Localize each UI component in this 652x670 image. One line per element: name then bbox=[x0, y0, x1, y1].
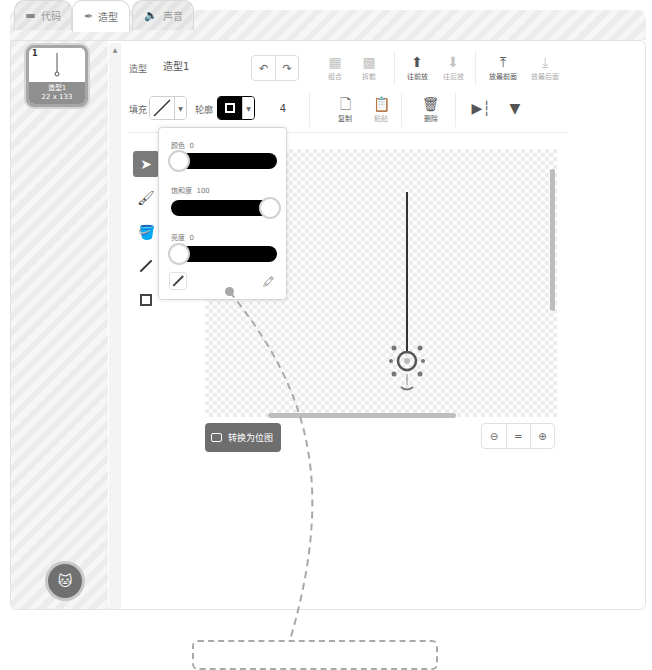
divider bbox=[401, 93, 402, 127]
zoom-in-button[interactable]: ⊕ bbox=[530, 424, 554, 448]
forward-button[interactable]: ⬆ 往前放 bbox=[399, 53, 435, 81]
editor-frame: 1 造型1 22 x 133 🐱 ▲ 造型 造型1 ↶ ↷ ▦ 组合 bbox=[10, 40, 646, 610]
tab-costumes-label: 造型 bbox=[98, 9, 118, 24]
ungroup-label: 拆散 bbox=[362, 71, 376, 81]
costume-size: 22 x 133 bbox=[29, 93, 85, 102]
zoom-controls: ⊖ = ⊕ bbox=[481, 423, 555, 449]
zoom-out-icon: ⊖ bbox=[490, 431, 498, 442]
color-value: 0 bbox=[189, 142, 193, 150]
fill-tool[interactable]: 🪣 bbox=[133, 219, 159, 245]
group-button[interactable]: ▦ 组合 bbox=[317, 53, 353, 81]
fill-color-picker[interactable]: ▼ bbox=[149, 96, 187, 120]
outline-width-input[interactable]: 4 bbox=[263, 96, 303, 120]
arrow-down-icon: ⬇ bbox=[447, 53, 459, 71]
divider bbox=[394, 51, 395, 85]
arrow-top-icon: ⤒ bbox=[500, 53, 506, 71]
zoom-out-button[interactable]: ⊖ bbox=[482, 424, 506, 448]
add-sprite-cat-icon: 🐱 bbox=[58, 573, 73, 589]
brush-tool[interactable]: 🖌 bbox=[133, 185, 159, 211]
costume-name: 造型1 bbox=[29, 84, 85, 93]
select-tool[interactable]: ➤ bbox=[133, 151, 159, 177]
color-slider[interactable] bbox=[171, 153, 277, 169]
no-color-button[interactable] bbox=[169, 272, 187, 290]
canvas-vertical-scrollbar[interactable] bbox=[550, 169, 555, 311]
undo-icon: ↶ bbox=[259, 62, 268, 75]
line-icon bbox=[140, 260, 153, 273]
trash-icon: 🗑 bbox=[422, 95, 440, 113]
costume-label: 造型1 22 x 133 bbox=[29, 82, 85, 104]
outline-swatch bbox=[218, 97, 242, 119]
copy-button[interactable]: 🗋 复制 bbox=[327, 95, 363, 123]
backward-button[interactable]: ⬇ 往后放 bbox=[435, 53, 471, 81]
tab-code[interactable]: ▬ 代码 bbox=[14, 0, 72, 30]
delete-button[interactable]: 🗑 删除 bbox=[413, 95, 449, 123]
brightness-slider[interactable] bbox=[171, 246, 277, 262]
tab-sounds-label: 声音 bbox=[163, 8, 183, 23]
costume-list: 1 造型1 22 x 133 🐱 bbox=[11, 41, 108, 610]
flip-horizontal-button[interactable]: ▶┆ bbox=[463, 99, 499, 117]
outline-label: 轮廓 bbox=[195, 103, 213, 116]
color-slider-knob[interactable] bbox=[168, 150, 190, 172]
copy-label: 复制 bbox=[338, 113, 352, 123]
annotation-box bbox=[192, 640, 438, 670]
costume-list-scrollbar[interactable]: ▲ bbox=[109, 43, 121, 609]
code-icon: ▬ bbox=[25, 9, 35, 22]
saturation-slider-knob[interactable] bbox=[259, 197, 281, 219]
fill-label: 填充 bbox=[129, 103, 147, 116]
tab-code-label: 代码 bbox=[41, 8, 61, 23]
copy-icon: 🗋 bbox=[340, 95, 351, 113]
outline-color-picker[interactable]: ▼ bbox=[217, 96, 255, 120]
tab-costumes[interactable]: ✒ 造型 bbox=[72, 0, 130, 32]
rectangle-icon bbox=[140, 294, 152, 306]
zoom-reset-label: = bbox=[514, 431, 522, 442]
forward-label: 往前放 bbox=[407, 71, 428, 81]
tool-palette: ➤ 🖌 🪣 bbox=[133, 151, 159, 321]
chevron-down-icon: ▼ bbox=[174, 97, 186, 119]
image-icon bbox=[211, 433, 222, 442]
brush-icon: 🖌 bbox=[137, 190, 155, 206]
outline-color-popover: 颜色 0 饱和度 100 亮度 0 🖍 bbox=[158, 127, 287, 300]
flip-vertical-button[interactable]: ▼ bbox=[497, 99, 533, 117]
paste-label: 粘贴 bbox=[374, 113, 388, 123]
divider bbox=[475, 51, 476, 85]
group-icon: ▦ bbox=[328, 53, 341, 71]
no-color-icon bbox=[173, 276, 184, 287]
convert-to-bitmap-button[interactable]: 转换为位图 bbox=[205, 423, 281, 452]
saturation-slider[interactable] bbox=[171, 200, 277, 216]
paste-button[interactable]: 📋 粘贴 bbox=[363, 95, 399, 123]
brush-icon: ✒ bbox=[84, 10, 93, 23]
brightness-label: 亮度 0 bbox=[171, 232, 194, 242]
saturation-label: 饱和度 100 bbox=[171, 185, 210, 195]
paste-icon: 📋 bbox=[373, 95, 390, 113]
chevron-down-icon: ▼ bbox=[242, 97, 254, 119]
undo-button[interactable]: ↶ bbox=[252, 56, 275, 80]
send-to-back-button[interactable]: ⤓ 放最后面 bbox=[525, 53, 565, 81]
front-label: 放最前面 bbox=[489, 71, 517, 81]
brightness-slider-knob[interactable] bbox=[168, 243, 190, 265]
canvas-horizontal-scrollbar[interactable] bbox=[268, 413, 456, 418]
redo-button[interactable]: ↷ bbox=[275, 56, 298, 80]
group-label: 组合 bbox=[328, 71, 342, 81]
no-fill-icon bbox=[150, 97, 174, 119]
convert-label: 转换为位图 bbox=[228, 431, 273, 444]
speaker-icon: 🔈 bbox=[144, 9, 158, 22]
rectangle-tool[interactable] bbox=[133, 287, 159, 313]
annotation-pointer-dot bbox=[225, 287, 234, 296]
undo-redo-group: ↶ ↷ bbox=[251, 55, 299, 81]
redo-icon: ↷ bbox=[282, 62, 291, 75]
brightness-value: 0 bbox=[189, 234, 193, 242]
ungroup-button[interactable]: ▩ 拆散 bbox=[351, 53, 387, 81]
flip-vertical-icon: ▼ bbox=[510, 99, 521, 117]
zoom-reset-button[interactable]: = bbox=[506, 424, 530, 448]
saturation-value: 100 bbox=[196, 187, 209, 195]
arrow-pointer-icon: ➤ bbox=[140, 156, 152, 172]
costume-item[interactable]: 1 造型1 22 x 133 bbox=[26, 45, 88, 107]
eyedropper-button[interactable]: 🖍 bbox=[259, 272, 277, 290]
zoom-in-icon: ⊕ bbox=[538, 431, 546, 442]
costume-name-input[interactable]: 造型1 bbox=[159, 56, 247, 78]
add-costume-button[interactable]: 🐱 bbox=[48, 564, 82, 598]
line-tool[interactable] bbox=[133, 253, 159, 279]
tab-sounds[interactable]: 🔈 声音 bbox=[132, 0, 194, 30]
bring-to-front-button[interactable]: ⤒ 放最前面 bbox=[483, 53, 523, 81]
